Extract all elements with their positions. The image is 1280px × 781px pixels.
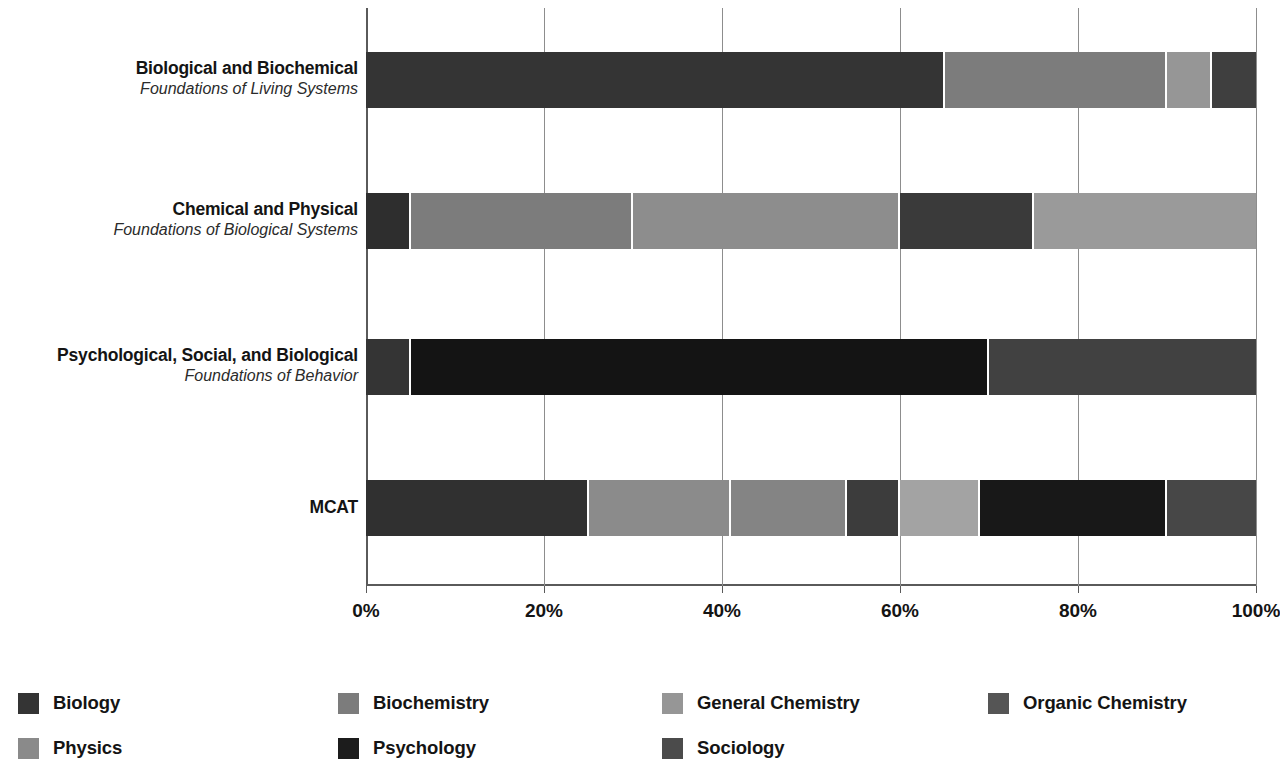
bar-segment[interactable] [366,193,411,249]
x-axis-tick-label: 80% [1059,600,1097,622]
legend-label: Biochemistry [373,692,489,714]
legend-item[interactable]: Organic Chemistry [988,692,1187,714]
legend-label: Sociology [697,737,785,759]
legend-swatch-icon [338,738,359,759]
x-axis-tick-label: 100% [1232,600,1280,622]
legend-swatch-icon [18,693,39,714]
legend-label: Psychology [373,737,476,759]
x-axis-tick [544,586,545,593]
legend-item[interactable]: Psychology [338,737,476,759]
bar-segment[interactable] [900,480,980,536]
x-axis-tick-label: 20% [525,600,563,622]
legend-item[interactable]: Physics [18,737,122,759]
bar-segment[interactable] [847,480,900,536]
bar-segment[interactable] [1034,193,1257,249]
bar-row[interactable] [366,339,1256,395]
legend-item[interactable]: Sociology [662,737,785,759]
category-label-title: Psychological, Social, and Biological [0,345,358,366]
legend-item[interactable]: Biology [18,692,120,714]
category-label: Biological and BiochemicalFoundations of… [0,58,358,98]
x-axis-tick [722,586,723,593]
bar-segment[interactable] [366,339,411,395]
category-label: MCAT [0,497,358,518]
legend-item[interactable]: General Chemistry [662,692,860,714]
bar-row[interactable] [366,52,1256,108]
x-axis-tick-label: 60% [881,600,919,622]
bar-segment[interactable] [366,480,589,536]
x-axis-tick [366,586,367,593]
legend-swatch-icon [662,738,683,759]
bar-segment[interactable] [1167,480,1256,536]
bar-segment[interactable] [900,193,1034,249]
bar-segment[interactable] [633,193,900,249]
legend-label: General Chemistry [697,692,860,714]
bar-row[interactable] [366,480,1256,536]
category-label: Psychological, Social, and BiologicalFou… [0,345,358,385]
category-label-title: Biological and Biochemical [0,58,358,79]
bar-segment[interactable] [1167,52,1212,108]
bar-row[interactable] [366,193,1256,249]
bar-segment[interactable] [366,52,945,108]
legend-label: Organic Chemistry [1023,692,1187,714]
bar-segment[interactable] [989,339,1256,395]
x-axis-tick-label: 0% [352,600,379,622]
legend-label: Physics [53,737,122,759]
legend-item[interactable]: Biochemistry [338,692,489,714]
bar-segment[interactable] [411,339,990,395]
legend-swatch-icon [18,738,39,759]
x-axis-line [366,584,1256,586]
bar-segment[interactable] [589,480,731,536]
gridline [1256,8,1257,586]
x-axis-tick-label: 40% [703,600,741,622]
category-label-title: Chemical and Physical [0,199,358,220]
category-label-subtitle: Foundations of Living Systems [0,80,358,98]
x-axis-tick [1256,586,1257,593]
legend-swatch-icon [988,693,1009,714]
legend-swatch-icon [662,693,683,714]
x-axis-tick [1078,586,1079,593]
category-label: Chemical and PhysicalFoundations of Biol… [0,199,358,239]
bar-segment[interactable] [731,480,847,536]
chart-legend: BiologyBiochemistryGeneral ChemistryOrga… [0,684,1271,781]
bar-segment[interactable] [945,52,1168,108]
x-axis-tick [900,586,901,593]
bar-segment[interactable] [1212,52,1257,108]
bar-segment[interactable] [980,480,1167,536]
bar-segment[interactable] [411,193,634,249]
legend-swatch-icon [338,693,359,714]
legend-label: Biology [53,692,120,714]
category-label-subtitle: Foundations of Behavior [0,367,358,385]
category-label-title: MCAT [0,497,358,518]
category-label-subtitle: Foundations of Biological Systems [0,221,358,239]
stacked-bar-chart: 0%20%40%60%80%100% Biological and Bioche… [0,0,1271,660]
